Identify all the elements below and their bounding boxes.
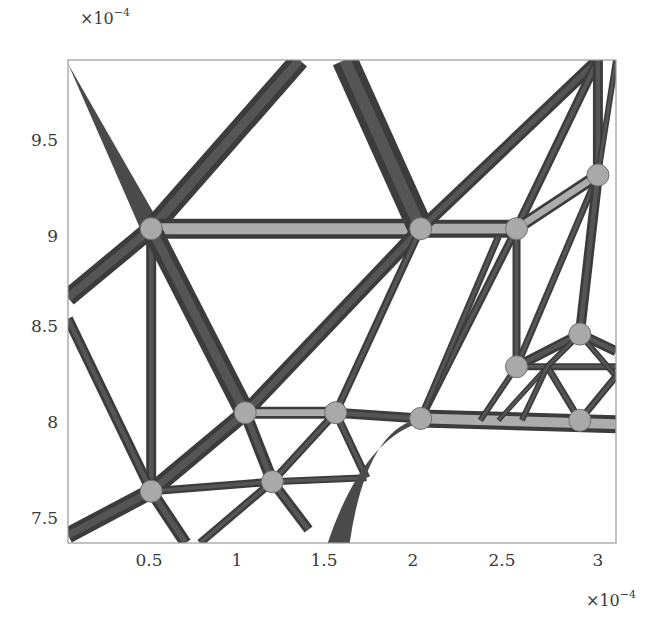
truss-node	[506, 218, 528, 240]
truss-node	[325, 402, 347, 424]
y-scale-exponent: −4	[114, 6, 130, 19]
x-scale-text: ×10	[586, 591, 620, 610]
x-tick-label: 0.5	[135, 550, 162, 570]
truss-node	[587, 164, 609, 186]
x-tick-label: 2.5	[488, 550, 515, 570]
x-tick-label: 1.5	[310, 550, 337, 570]
y-tick-label: 9.5	[31, 130, 58, 150]
y-scale-multiplier: ×10−4	[80, 8, 130, 28]
truss-node	[569, 409, 591, 431]
x-tick-label: 1	[232, 550, 243, 570]
truss-node	[410, 407, 432, 429]
truss-node	[234, 402, 256, 424]
y-tick-label: 7.5	[31, 508, 58, 528]
x-scale-exponent: −4	[620, 588, 636, 601]
y-tick-label: 9	[47, 226, 58, 246]
truss-node	[506, 356, 528, 378]
truss-node	[140, 480, 162, 502]
truss-node	[569, 323, 591, 345]
x-scale-multiplier: ×10−4	[586, 590, 636, 610]
structure-plot	[0, 0, 664, 624]
y-scale-text: ×10	[80, 9, 114, 28]
y-tick-label: 8.5	[31, 316, 58, 336]
truss-node	[410, 218, 432, 240]
y-tick-label: 8	[47, 412, 58, 432]
truss-node	[140, 218, 162, 240]
x-tick-label: 3	[593, 550, 604, 570]
truss-node	[261, 471, 283, 493]
x-tick-label: 2	[408, 550, 419, 570]
